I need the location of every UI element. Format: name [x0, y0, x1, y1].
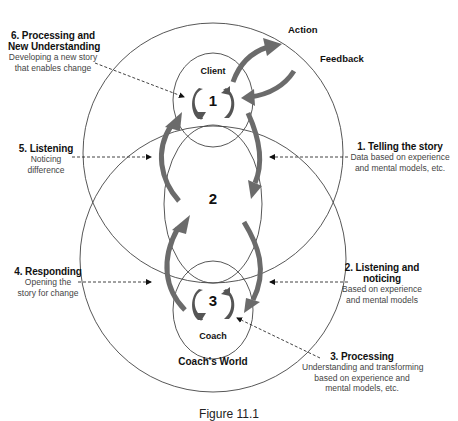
step-6-title-line-1: 6. Processing and	[8, 30, 98, 41]
coach-world-label: Coach's World	[170, 356, 256, 367]
feedback-arrow	[250, 71, 294, 97]
coach-label: Coach	[190, 331, 236, 341]
step-6-label: 6. Processing and New Understanding Deve…	[8, 30, 98, 73]
step-4-desc-line-2: story for change	[10, 288, 86, 299]
step-1-title: 1. Telling the story	[350, 141, 450, 152]
step-3-desc-line-3: mental models, etc.	[302, 383, 422, 394]
step-2-desc-line-1: Based on experience	[342, 284, 422, 295]
step-3-title: 3. Processing	[302, 351, 422, 362]
middle-to-coach-arrowhead	[244, 298, 260, 313]
step-5-desc-line-2: difference	[14, 165, 78, 176]
flow-arrowheads	[165, 38, 282, 313]
step-1-desc-line-2: and mental models, etc.	[350, 163, 450, 174]
step-2-label: 2. Listening and noticing Based on exper…	[342, 262, 422, 305]
step-5-title: 5. Listening	[14, 143, 78, 154]
arrow-coach-to-middle	[167, 228, 185, 310]
arrow-middle-to-client	[161, 126, 179, 201]
figure-caption: Figure 11.1	[0, 407, 458, 421]
arrow-client-to-middle	[248, 113, 260, 183]
step-2-desc-line-2: and mental models	[342, 295, 422, 306]
pointer-step-6	[95, 63, 184, 97]
step-5-desc-line-1: Noticing	[14, 154, 78, 165]
step-1-label: 1. Telling the story Data based on exper…	[350, 141, 450, 173]
coach-number: 3	[203, 292, 223, 309]
step-1-desc-line-1: Data based on experience	[350, 152, 450, 163]
client-number: 1	[203, 92, 223, 109]
flow-arrows	[161, 47, 294, 310]
step-5-label: 5. Listening Noticing difference	[14, 143, 78, 175]
action-arrow	[233, 47, 268, 82]
step-4-desc-line-1: Opening the	[10, 277, 86, 288]
step-6-title-line-2: New Understanding	[8, 41, 98, 52]
client-world-circle	[83, 23, 343, 283]
feedback-label: Feedback	[320, 53, 364, 64]
step-3-desc-line-1: Understanding and transforming	[302, 362, 422, 373]
client-label: Client	[193, 66, 233, 76]
action-label: Action	[288, 24, 318, 35]
middle-number: 2	[203, 190, 223, 207]
step-4-label: 4. Responding Opening the story for chan…	[10, 266, 86, 298]
step-3-desc-line-2: based on experience and	[302, 373, 422, 384]
step-2-title-line-2: noticing	[342, 273, 422, 284]
step-6-desc-line-2: that enables change	[8, 63, 98, 74]
step-4-title: 4. Responding	[10, 266, 86, 277]
step-6-desc-line-1: Developing a new story	[8, 52, 98, 63]
step-3-label: 3. Processing Understanding and transfor…	[302, 351, 422, 394]
feedback-arrowhead	[241, 89, 255, 106]
step-2-title-line-1: 2. Listening and	[342, 262, 422, 273]
